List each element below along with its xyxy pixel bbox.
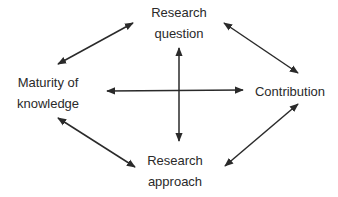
arrow-maturity-question <box>58 23 133 64</box>
node-contribution: Contribution <box>248 81 332 102</box>
arrow-question-contribution <box>224 23 298 73</box>
arrow-horizontal <box>107 90 243 91</box>
node-label-line1: Research <box>132 150 218 171</box>
node-research-question: Research question <box>136 2 222 44</box>
node-maturity-of-knowledge: Maturity of knowledge <box>10 72 86 114</box>
node-label-line2: knowledge <box>10 93 86 114</box>
arrow-maturity-approach <box>58 118 135 167</box>
diagram-canvas: Research question Maturity of knowledge … <box>0 0 338 197</box>
node-research-approach: Research approach <box>132 150 218 192</box>
node-label: Contribution <box>248 81 332 102</box>
node-label-line2: question <box>136 23 222 44</box>
node-label-line1: Research <box>136 2 222 23</box>
node-label-line2: approach <box>132 171 218 192</box>
node-label-line1: Maturity of <box>10 72 86 93</box>
arrow-approach-contribution <box>225 104 298 166</box>
